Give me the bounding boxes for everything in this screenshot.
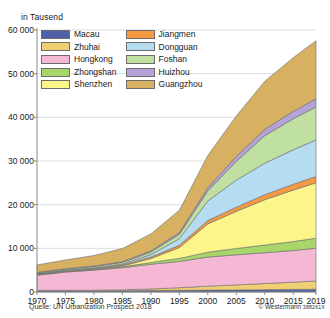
y-tick-label: 20 000 <box>0 200 34 210</box>
legend-label: Macau <box>74 30 100 39</box>
legend-swatch-icon <box>41 80 70 89</box>
legend-item: Dongguan <box>126 41 203 54</box>
legend-item: Jiangmen <box>126 28 203 41</box>
y-tick-label: 60 000 <box>0 25 34 35</box>
legend-label: Guangzhou <box>159 80 203 89</box>
legend-item: Huizhou <box>126 66 203 79</box>
legend-label: Zhuhai <box>74 43 100 52</box>
legend-label: Huizhou <box>159 68 190 77</box>
x-tick-label: 2000 <box>194 296 222 306</box>
publisher-credit: © Westermann 388261X <box>258 303 325 310</box>
legend-label: Hongkong <box>74 55 113 64</box>
legend-swatch-icon <box>126 42 155 51</box>
y-tick-label: 10 000 <box>0 243 34 253</box>
legend-swatch-icon <box>41 68 70 77</box>
legend-swatch-icon <box>126 80 155 89</box>
y-tick-label: 30 000 <box>0 156 34 166</box>
legend-item: Foshan <box>126 53 203 66</box>
legend-swatch-icon <box>41 42 70 51</box>
credit-text: © Westermann <box>258 303 301 310</box>
chart-legend: MacauJiangmenZhuhaiDongguanHongkongFosha… <box>41 28 203 91</box>
x-tick-label: 2005 <box>222 296 250 306</box>
legend-item: Guangzhou <box>126 78 203 91</box>
chart-figure: in Tausend 010 00020 00030 00040 00050 0… <box>0 0 330 318</box>
legend-swatch-icon <box>41 30 70 39</box>
legend-swatch-icon <box>126 55 155 64</box>
legend-item: Zhongshan <box>41 66 117 79</box>
legend-item: Macau <box>41 28 117 41</box>
legend-label: Foshan <box>159 55 187 64</box>
legend-label: Dongguan <box>159 43 198 52</box>
legend-item: Zhuhai <box>41 41 117 54</box>
legend-swatch-icon <box>41 55 70 64</box>
legend-label: Zhongshan <box>74 68 117 77</box>
legend-swatch-icon <box>126 30 155 39</box>
legend-label: Shenzhen <box>74 80 112 89</box>
credit-code: 388261X <box>303 304 325 310</box>
y-tick-label: 40 000 <box>0 112 34 122</box>
legend-swatch-icon <box>126 68 155 77</box>
x-tick-label: 1995 <box>165 296 193 306</box>
legend-item: Shenzhen <box>41 78 117 91</box>
y-tick-label: 50 000 <box>0 69 34 79</box>
legend-item: Hongkong <box>41 53 117 66</box>
legend-label: Jiangmen <box>159 30 196 39</box>
source-note: Quelle: UN Urbanization Prospect 2018 <box>29 303 152 310</box>
